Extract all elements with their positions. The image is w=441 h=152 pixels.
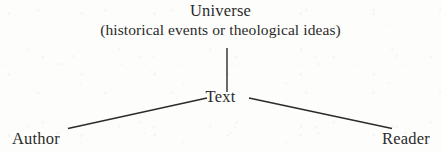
node-universe-label: Universe bbox=[0, 3, 441, 20]
node-reader-label: Reader bbox=[382, 131, 430, 148]
diagram-figure: Universe (historical events or theologic… bbox=[0, 0, 441, 152]
node-universe-sublabel: (historical events or theological ideas) bbox=[0, 22, 441, 38]
node-text-label: Text bbox=[0, 89, 441, 106]
node-author-label: Author bbox=[12, 131, 60, 148]
